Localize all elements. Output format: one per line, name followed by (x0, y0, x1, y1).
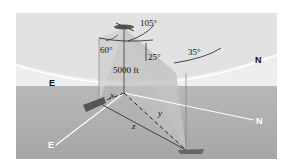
east-ground-label: E (48, 140, 54, 150)
diagram-canvas: 105° 60° 25° 35° 5000 ft E N E N x y z (16, 13, 277, 159)
north-sky-label: N (255, 55, 262, 65)
distance-x-label: x (109, 90, 114, 100)
figure: 105° 60° 25° 35° 5000 ft E N E N x y z (16, 13, 277, 159)
angle-35-label: 35° (188, 47, 201, 57)
altitude-label: 5000 ft (113, 65, 139, 75)
distance-z-label: z (131, 121, 136, 131)
angle-105-label: 105° (140, 18, 158, 28)
east-sky-label: E (49, 78, 55, 88)
distance-y-label: y (157, 108, 162, 118)
angle-60-label: 60° (100, 45, 113, 55)
angle-25-label: 25° (148, 52, 161, 62)
north-ground-label: N (256, 116, 263, 126)
